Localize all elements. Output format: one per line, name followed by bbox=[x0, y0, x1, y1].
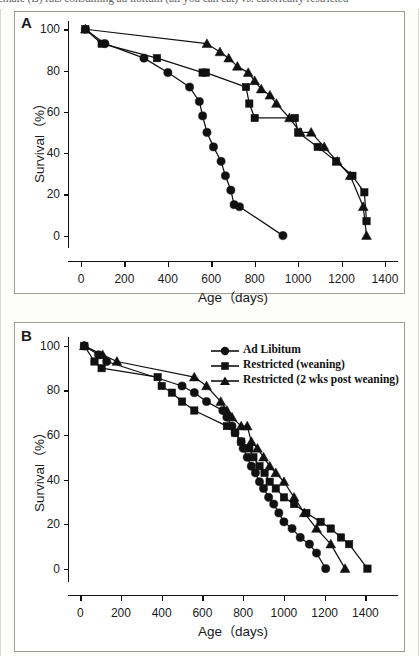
y-tick bbox=[64, 346, 69, 347]
square-marker-icon bbox=[210, 358, 240, 370]
x-tick bbox=[298, 262, 299, 267]
panel-a-data-layer bbox=[68, 21, 398, 248]
y-tick bbox=[64, 112, 69, 113]
panel-a: A Survival（%） Age（days) 0204060801000200… bbox=[14, 11, 405, 294]
square-marker bbox=[91, 358, 98, 365]
figure-caption-text: female (B) rats consuming ad libitum (al… bbox=[0, 0, 348, 5]
square-marker bbox=[223, 422, 230, 429]
circle-marker bbox=[203, 128, 211, 136]
square-marker bbox=[345, 540, 352, 547]
circle-marker bbox=[190, 389, 198, 397]
y-tick bbox=[64, 29, 69, 30]
circle-marker bbox=[279, 232, 287, 240]
x-tick bbox=[284, 596, 285, 601]
legend-label-restricted-weaning: Restricted (weaning) bbox=[243, 358, 345, 370]
square-marker bbox=[337, 534, 344, 541]
figure-caption-strip: female (B) rats consuming ad libitum (al… bbox=[0, 0, 419, 9]
x-tick bbox=[124, 262, 125, 267]
triangle-marker bbox=[224, 53, 234, 62]
x-tick-label: 600 bbox=[201, 272, 221, 286]
x-tick-label: 800 bbox=[245, 272, 265, 286]
square-marker bbox=[272, 485, 279, 492]
x-tick bbox=[365, 596, 366, 601]
y-tick bbox=[64, 194, 69, 195]
circle-marker bbox=[227, 186, 235, 194]
square-marker bbox=[202, 69, 209, 76]
circle-marker bbox=[280, 518, 288, 526]
square-marker bbox=[266, 478, 273, 485]
circle-marker bbox=[312, 549, 320, 557]
x-tick bbox=[81, 262, 82, 267]
legend-label-ad-libitum: Ad Libitum bbox=[243, 343, 301, 355]
x-tick-label: 200 bbox=[111, 606, 131, 620]
square-marker bbox=[153, 54, 160, 61]
x-tick-label: 1000 bbox=[271, 606, 298, 620]
circle-marker bbox=[235, 203, 243, 211]
x-tick-label: 1200 bbox=[328, 272, 355, 286]
x-tick-label: 1000 bbox=[285, 272, 312, 286]
square-marker bbox=[327, 525, 334, 532]
y-tick-label: 100 bbox=[40, 22, 60, 36]
circle-marker bbox=[202, 397, 210, 405]
square-marker bbox=[178, 398, 185, 405]
y-tick bbox=[64, 390, 69, 391]
triangle-marker bbox=[112, 357, 122, 366]
panel-b-x-axis-line bbox=[68, 595, 398, 596]
x-tick bbox=[168, 262, 169, 267]
square-marker bbox=[363, 217, 370, 224]
y-tick-label: 40 bbox=[47, 146, 60, 160]
y-tick bbox=[64, 480, 69, 481]
square-marker bbox=[280, 494, 287, 501]
y-tick-label: 40 bbox=[47, 473, 60, 487]
circle-marker bbox=[270, 500, 278, 508]
panel-a-letter: A bbox=[21, 14, 32, 31]
panel-a-y-axis-title: Survival（%） bbox=[28, 97, 48, 183]
y-tick bbox=[64, 71, 69, 72]
legend-item-restricted-weaning: Restricted (weaning) bbox=[210, 357, 399, 371]
y-tick-label: 20 bbox=[47, 187, 60, 201]
x-tick bbox=[202, 596, 203, 601]
square-marker bbox=[158, 382, 165, 389]
square-marker bbox=[98, 40, 105, 47]
circle-marker bbox=[209, 143, 217, 151]
series-line-circle bbox=[85, 29, 283, 235]
circle-marker bbox=[221, 172, 229, 180]
y-tick-label: 80 bbox=[47, 64, 60, 78]
circle-marker bbox=[195, 97, 203, 105]
square-marker bbox=[231, 429, 238, 436]
x-tick-label: 200 bbox=[114, 272, 134, 286]
triangle-marker bbox=[265, 461, 275, 470]
triangle-marker bbox=[340, 564, 350, 573]
square-marker bbox=[237, 438, 244, 445]
y-tick-label: 80 bbox=[47, 383, 60, 397]
x-tick-label: 1200 bbox=[311, 606, 338, 620]
square-marker bbox=[98, 364, 105, 371]
legend: Ad Libitum Restricted (weaning) bbox=[210, 342, 399, 387]
panel-b-x-axis-title: Age（days) bbox=[68, 620, 398, 640]
square-marker bbox=[191, 407, 198, 414]
x-tick bbox=[385, 262, 386, 267]
triangle-marker bbox=[215, 47, 225, 56]
y-tick-label: 60 bbox=[47, 428, 60, 442]
square-marker bbox=[251, 114, 258, 121]
figure-container: A Survival（%） Age（days) 0204060801000200… bbox=[0, 9, 419, 656]
triangle-marker bbox=[265, 90, 275, 99]
panel-b-y-axis-title: Survival（%） bbox=[28, 426, 48, 512]
circle-marker-icon bbox=[210, 343, 240, 355]
circle-marker bbox=[275, 509, 283, 517]
x-tick-label: 800 bbox=[233, 606, 253, 620]
circle-marker bbox=[296, 533, 304, 541]
square-marker bbox=[364, 565, 371, 572]
panel-a-x-axis-title: Age（days) bbox=[68, 286, 398, 306]
circle-marker bbox=[305, 540, 313, 548]
circle-marker bbox=[185, 83, 193, 91]
triangle-marker bbox=[243, 68, 253, 77]
x-tick-label: 0 bbox=[77, 606, 84, 620]
panel-a-plot-area: Age（days) 020406080100020040060080010001… bbox=[68, 21, 398, 248]
panel-b-letter: B bbox=[21, 327, 32, 344]
legend-label-restricted-post-weaning: Restricted (2 wks post weaning) bbox=[243, 373, 399, 385]
x-tick bbox=[80, 596, 81, 601]
square-marker bbox=[317, 518, 324, 525]
square-marker bbox=[168, 389, 175, 396]
square-marker bbox=[154, 373, 161, 380]
